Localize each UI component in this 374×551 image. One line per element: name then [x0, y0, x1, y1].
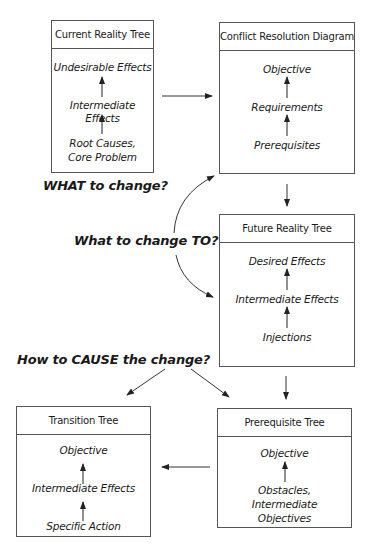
- connector-arrows: [0, 0, 374, 551]
- arc-to-frt: [176, 255, 213, 297]
- arc-to-crd: [174, 176, 214, 233]
- arrow-how-to-pt: [191, 369, 229, 397]
- arrow-how-to-tt: [127, 369, 165, 395]
